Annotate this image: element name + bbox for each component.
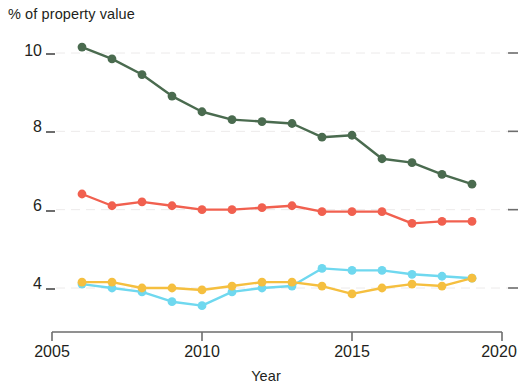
data-point-series-cyan-2017: [408, 270, 417, 279]
data-point-series-dark-green-2010: [198, 107, 207, 116]
data-point-series-cyan-2015: [348, 266, 357, 275]
data-point-series-red-2016: [378, 207, 387, 216]
data-point-series-red-2007: [108, 201, 117, 210]
data-point-series-red-2015: [348, 207, 357, 216]
data-point-series-yellow-2015: [348, 289, 357, 298]
data-point-series-red-2017: [408, 219, 417, 228]
data-point-series-yellow-2008: [138, 284, 147, 293]
data-point-series-yellow-2006: [78, 278, 87, 287]
data-point-series-red-2019: [468, 217, 477, 226]
data-point-series-dark-green-2008: [138, 70, 147, 79]
data-point-series-cyan-2009: [168, 297, 177, 306]
data-point-series-dark-green-2014: [318, 133, 327, 142]
data-point-series-red-2010: [198, 205, 207, 214]
data-point-series-dark-green-2006: [78, 43, 87, 52]
data-point-series-red-2018: [438, 217, 447, 226]
data-point-series-cyan-2014: [318, 264, 327, 273]
data-point-series-red-2011: [228, 205, 237, 214]
x-axis-title: Year: [0, 368, 532, 384]
data-point-series-red-2008: [138, 197, 147, 206]
data-point-series-yellow-2018: [438, 282, 447, 291]
data-point-series-red-2013: [288, 201, 297, 210]
data-point-series-dark-green-2018: [438, 170, 447, 179]
data-point-series-dark-green-2013: [288, 119, 297, 128]
x-tick-label-2005: 2005: [17, 343, 87, 361]
data-point-series-yellow-2017: [408, 280, 417, 289]
x-tick-label-2020: 2020: [464, 343, 532, 361]
data-point-series-red-2009: [168, 201, 177, 210]
data-point-series-yellow-2016: [378, 284, 387, 293]
x-tick-label-2015: 2015: [317, 343, 387, 361]
data-point-series-cyan-2016: [378, 266, 387, 275]
data-point-series-dark-green-2016: [378, 154, 387, 163]
data-point-series-yellow-2019: [468, 274, 477, 283]
data-point-series-dark-green-2009: [168, 92, 177, 101]
data-point-series-red-2014: [318, 207, 327, 216]
data-point-series-yellow-2013: [288, 278, 297, 287]
data-point-series-dark-green-2017: [408, 158, 417, 167]
data-point-series-red-2006: [78, 190, 87, 199]
data-point-series-dark-green-2011: [228, 115, 237, 124]
data-point-series-yellow-2007: [108, 278, 117, 287]
chart-container: % of property value 10 8 6 4 2005 2010 2…: [0, 0, 532, 392]
x-tick-label-2010: 2010: [167, 343, 237, 361]
series-lines-group: [82, 47, 472, 306]
data-point-series-yellow-2014: [318, 282, 327, 291]
series-markers-group: [78, 43, 477, 310]
data-point-series-dark-green-2019: [468, 180, 477, 189]
data-point-series-yellow-2010: [198, 286, 207, 295]
axis-group: [52, 53, 518, 341]
data-point-series-yellow-2012: [258, 278, 267, 287]
data-point-series-dark-green-2012: [258, 117, 267, 126]
data-point-series-cyan-2010: [198, 301, 207, 310]
data-point-series-cyan-2018: [438, 272, 447, 281]
data-point-series-dark-green-2007: [108, 54, 117, 63]
data-point-series-yellow-2009: [168, 284, 177, 293]
gridlines-group: [56, 53, 514, 288]
plot-area: [0, 0, 532, 392]
data-point-series-dark-green-2015: [348, 131, 357, 140]
data-point-series-yellow-2011: [228, 282, 237, 291]
data-point-series-red-2012: [258, 203, 267, 212]
